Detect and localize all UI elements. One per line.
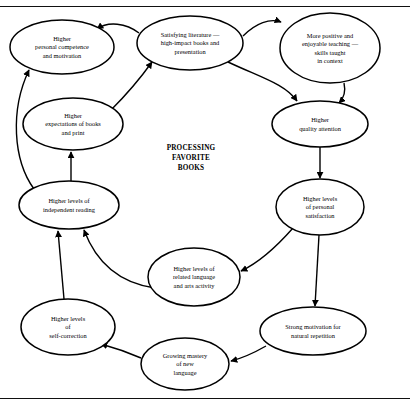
node-satisfaction-label-line-2: satisfaction: [305, 212, 335, 219]
node-language-label-line-1: related language: [173, 273, 215, 280]
node-reading-label-line-0: Higher levels of: [48, 197, 90, 204]
node-repetition[interactable]: Strong motivation fornatural repetition: [260, 307, 366, 355]
node-repetition-label-line-1: natural repetition: [291, 332, 336, 339]
node-reading[interactable]: Higher levels ofindependent reading: [19, 181, 119, 229]
node-mastery-label-line-1: of new: [176, 360, 194, 367]
node-attention-label-line-1: quality attention: [299, 125, 342, 132]
node-teaching-label-line-0: More positive and: [307, 32, 354, 39]
node-selfcorrect-label-line-0: Higher levels: [51, 315, 86, 322]
node-satisfaction-label-line-1: of personal: [306, 203, 335, 210]
node-attention[interactable]: Higherquality attention: [272, 101, 368, 147]
edge-literature-to-attention: [228, 62, 297, 101]
node-mastery-label-line-2: language: [173, 369, 196, 376]
node-literature-label-line-0: Satisfying literature —: [161, 31, 220, 38]
node-mastery-label-line-0: Growing mastery: [163, 352, 208, 359]
edge-satisfaction-to-language: [241, 228, 293, 271]
node-attention-label-line-0: Higher: [311, 116, 330, 123]
node-expectations[interactable]: Higherexpectations of booksand print: [23, 98, 123, 150]
node-teaching[interactable]: More positive andenjoyable teaching —ski…: [280, 13, 380, 83]
node-language[interactable]: Higher levels ofrelated languageand arts…: [148, 248, 240, 306]
edge-teaching-to-attention: [339, 83, 345, 103]
edge-literature-to-teaching: [243, 21, 281, 36]
node-selfcorrect-label-line-1: of: [65, 323, 71, 330]
node-selfcorrect[interactable]: Higher levelsofself-correction: [21, 299, 115, 355]
edge-mastery-to-selfcorrect: [101, 344, 141, 358]
diagram-page: Higherpersonal competenceand motivationS…: [0, 0, 410, 405]
node-expectations-label-line-1: expectations of books: [45, 120, 101, 127]
edge-language-to-reading: [84, 230, 155, 288]
edge-expectations-to-literature: [111, 62, 152, 110]
node-expectations-label-line-2: and print: [62, 129, 85, 136]
node-repetition-label-line-0: Strong motivation for: [285, 323, 341, 330]
node-teaching-label-line-1: enjoyable teaching —: [302, 40, 359, 47]
node-literature[interactable]: Satisfying literature —high-impact books…: [137, 16, 243, 70]
node-competence-label-line-1: personal competence: [35, 43, 89, 50]
center-title-line-0: PROCESSING: [167, 144, 216, 152]
node-teaching-label-line-2: skills taught: [314, 49, 345, 56]
node-language-label-line-0: Higher levels of: [173, 265, 215, 272]
edge-selfcorrect-to-reading: [58, 231, 64, 299]
node-competence-label-line-2: and motivation: [43, 52, 82, 59]
node-expectations-label-line-0: Higher: [64, 112, 83, 119]
node-competence[interactable]: Higherpersonal competenceand motivation: [10, 20, 114, 74]
node-reading-label-line-1: independent reading: [43, 206, 96, 213]
node-selfcorrect-label-line-2: self-correction: [49, 332, 87, 339]
node-satisfaction-label-line-0: Higher levels: [303, 195, 338, 202]
edge-satisfaction-to-repetition: [315, 235, 319, 306]
node-literature-label-line-1: high-impact books and: [161, 39, 220, 46]
node-language-label-line-2: and arts activity: [174, 282, 216, 289]
node-competence-label-line-0: Higher: [53, 35, 72, 42]
node-literature-label-line-2: presentation: [174, 48, 206, 55]
node-satisfaction[interactable]: Higher levelsof personalsatisfaction: [276, 179, 364, 235]
edge-repetition-to-mastery: [231, 346, 266, 361]
center-title-line-2: BOOKS: [178, 164, 205, 172]
node-layer: Higherpersonal competenceand motivationS…: [10, 13, 380, 390]
cycle-diagram: Higherpersonal competenceand motivationS…: [0, 0, 410, 405]
center-title-line-1: FAVORITE: [172, 154, 210, 162]
node-mastery[interactable]: Growing masteryof newlanguage: [141, 338, 229, 390]
node-teaching-label-line-3: in context: [317, 57, 343, 64]
center-label: PROCESSINGFAVORITEBOOKS: [167, 144, 216, 172]
